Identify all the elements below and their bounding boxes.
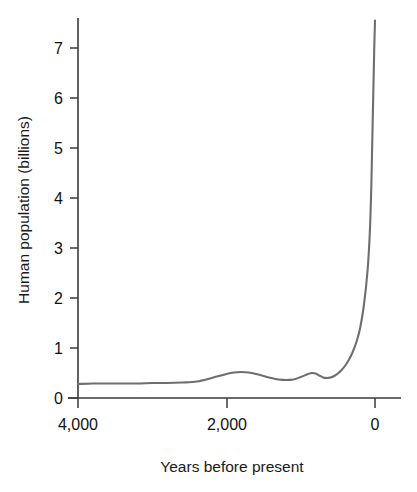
y-tick-label-2: 2 — [54, 290, 63, 307]
y-tick-label-5: 5 — [54, 140, 63, 157]
y-tick-label-0: 0 — [54, 390, 63, 407]
x-tick-label-4000: 4,000 — [58, 416, 98, 433]
population-chart: 7 6 5 4 3 2 1 0 4,000 2,000 0 Human popu… — [0, 0, 417, 492]
x-tick-label-2000: 2,000 — [207, 416, 247, 433]
y-tick-label-1: 1 — [54, 340, 63, 357]
x-tick-label-0: 0 — [371, 416, 380, 433]
y-axis-title: Human population (billions) — [15, 116, 32, 304]
chart-svg: 7 6 5 4 3 2 1 0 4,000 2,000 0 Human popu… — [0, 0, 417, 492]
y-tick-label-7: 7 — [54, 40, 63, 57]
x-axis-title: Years before present — [160, 458, 304, 475]
y-tick-label-6: 6 — [54, 90, 63, 107]
y-tick-label-4: 4 — [54, 190, 63, 207]
y-tick-label-3: 3 — [54, 240, 63, 257]
